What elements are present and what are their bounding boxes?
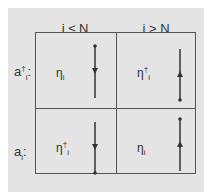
row-header-creation: a†i: xyxy=(14,64,31,79)
cell-symbol-r0c1: η†i xyxy=(137,66,150,80)
symbol-sub: i xyxy=(144,148,146,157)
symbol-sub: i xyxy=(63,73,65,82)
symbol-sub: i xyxy=(67,148,69,157)
cell-symbol-r1c0: η†i xyxy=(56,141,69,155)
row-label-suffix: : xyxy=(27,64,31,79)
row-divider xyxy=(36,108,195,109)
arrow-up-icon xyxy=(175,46,185,104)
symbol-base: η xyxy=(56,141,63,155)
symbol-sub: i xyxy=(148,73,150,82)
cell-symbol-r1c1: ηi xyxy=(137,141,145,155)
symbol-base: η xyxy=(56,66,63,80)
cell-symbol-r0c0: ηi xyxy=(56,66,64,80)
symbol-base: η xyxy=(137,141,144,155)
column-divider xyxy=(116,33,117,173)
arrow-down-icon xyxy=(90,119,100,177)
arrow-down-icon xyxy=(90,43,100,101)
row-label-sup: † xyxy=(21,64,25,73)
symbol-base: η xyxy=(137,66,144,80)
arrow-up-icon xyxy=(175,116,185,174)
row-header-annihilation: ai: xyxy=(14,144,27,159)
row-label-suffix: : xyxy=(23,144,27,159)
operator-table: ηi η†i η†i ηi xyxy=(35,32,196,174)
